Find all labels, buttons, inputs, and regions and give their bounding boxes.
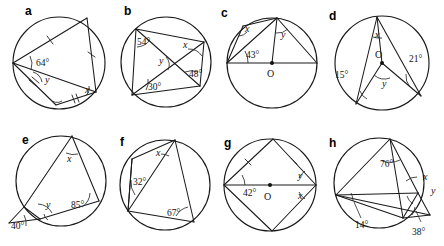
angle-arc-y <box>33 72 42 82</box>
panel-letter-c: c <box>221 6 228 20</box>
secant-ext-upper <box>418 193 430 215</box>
panel-letter-e: e <box>22 133 29 147</box>
panel-a: a 64° y x <box>0 0 114 123</box>
angle-label-x: x <box>374 29 380 40</box>
chord-top-bottomleft <box>356 17 377 104</box>
angle-arc-64 <box>30 56 32 70</box>
angle-label-21: 21° <box>409 54 423 64</box>
centre-label-O: O <box>375 49 382 60</box>
chord-left-rightupper <box>336 193 418 195</box>
angle-label-14: 14° <box>355 220 369 230</box>
chord-left-right <box>13 63 96 92</box>
angle-label-x: x <box>182 39 188 50</box>
angle-label-x: x <box>66 153 72 164</box>
angle-label-54: 54° <box>137 37 151 47</box>
angle-label-x: x <box>84 84 90 95</box>
panel-letter-a: a <box>25 4 32 18</box>
panel-letter-d: d <box>329 9 336 23</box>
angle-label-15: 15° <box>335 70 349 80</box>
panel-f: f x 32° 67° <box>110 123 220 246</box>
angle-label-32: 32° <box>133 177 147 187</box>
panel-g: g 42° y x O <box>215 123 325 246</box>
chord-left <box>132 29 136 95</box>
angle-arc-42 <box>242 175 245 185</box>
chord-left-rightlower <box>336 195 403 218</box>
angle-label-y: y <box>297 170 303 181</box>
panel-b: b 54° x y 48° 30° <box>110 0 220 123</box>
angle-label-y: y <box>280 29 286 40</box>
angle-label-42: 42° <box>243 188 257 198</box>
angle-label-43: 43° <box>246 50 260 60</box>
panel-e: e x y 85° 40° <box>0 123 114 246</box>
angle-arc-y-vertex <box>50 99 62 102</box>
chord-top-right <box>72 136 99 201</box>
tick-mark-double-1a <box>29 80 36 86</box>
angle-label-x: x <box>297 190 303 201</box>
figure-sheet: a 64° y x b 54° x y 48° 30° <box>0 0 444 246</box>
angle-label-38: 38° <box>412 227 426 237</box>
tick-mark-2 <box>291 158 297 164</box>
angle-label-y: y <box>45 199 51 210</box>
angle-label-85: 85° <box>71 200 85 210</box>
chord-right-side <box>403 193 418 218</box>
centre-dot <box>268 183 272 187</box>
centre-dot <box>270 61 274 65</box>
panel-letter-h: h <box>329 136 336 150</box>
angle-label-67: 67° <box>167 208 181 218</box>
angle-label-40: 40° <box>11 221 25 231</box>
angle-label-y: y <box>158 55 164 66</box>
angle-label-76: 76° <box>380 159 394 169</box>
secant-ext-lower <box>403 215 430 218</box>
chord-left-upper <box>227 26 243 63</box>
tick-mark-single-1 <box>47 36 53 44</box>
panel-d: d x 21° 15° y O <box>320 0 444 123</box>
angle-arc-y <box>166 57 169 70</box>
panel-h: h 76° x y 14° 38° <box>320 123 444 246</box>
angle-label-y: y <box>44 74 50 85</box>
chord-left-ext <box>336 195 430 215</box>
radius-bottomleft <box>356 63 382 104</box>
centre-label-O: O <box>267 68 274 79</box>
chord-right <box>200 42 204 86</box>
chord-left-bottom <box>13 63 56 105</box>
circle-outline <box>13 17 105 109</box>
angle-label-x: x <box>244 23 250 34</box>
radius-bottomright <box>382 63 421 96</box>
chord-left-bottom <box>24 207 40 219</box>
angle-label-y: y <box>430 185 436 196</box>
angle-label-x: x <box>155 147 161 158</box>
leader-line-14 <box>354 202 361 218</box>
angle-label-48: 48° <box>189 69 203 79</box>
panel-c: c x y 43° O <box>215 0 325 123</box>
angle-label-x: x <box>422 171 428 182</box>
angle-label-30: 30° <box>148 82 162 92</box>
radius-top-centre <box>272 18 277 63</box>
centre-dot <box>380 61 384 65</box>
panel-letter-g: g <box>224 136 231 150</box>
angle-label-64: 64° <box>36 58 50 68</box>
panel-letter-b: b <box>124 4 131 18</box>
angle-label-y: y <box>381 78 387 89</box>
centre-label-O: O <box>264 191 271 202</box>
panel-letter-f: f <box>120 135 125 149</box>
